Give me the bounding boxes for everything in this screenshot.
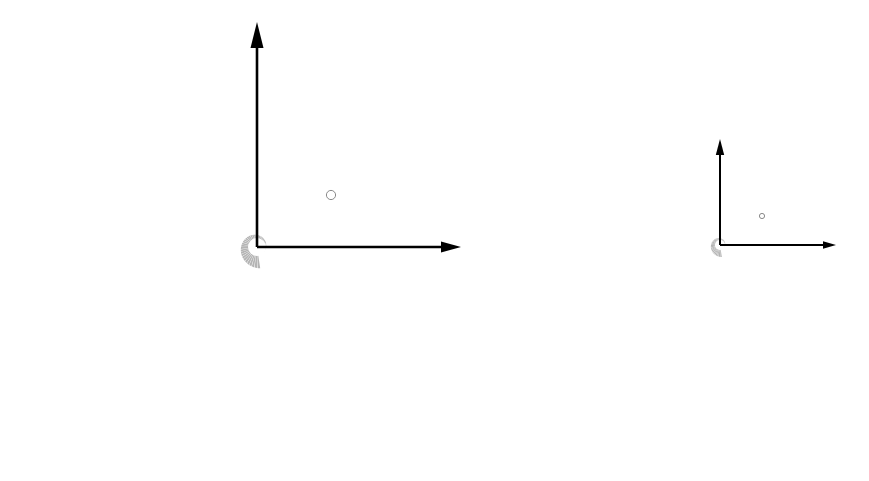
shell-figure-canvas — [0, 0, 869, 481]
protoconch-marker-icon — [326, 190, 335, 199]
figure-background — [0, 0, 869, 481]
protoconch-marker-icon — [759, 213, 764, 218]
